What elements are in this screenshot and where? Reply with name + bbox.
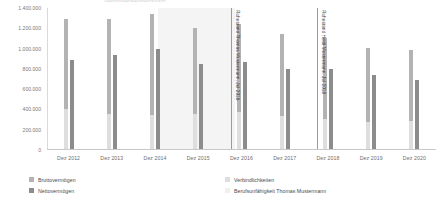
bar-liability-segment	[64, 109, 68, 150]
x-tick-label: Dez 2019	[360, 155, 383, 161]
y-tick-label: 200.000	[23, 127, 41, 133]
bar	[286, 69, 290, 150]
legend-item: Nettovermögen	[29, 185, 76, 196]
y-axis-spine	[47, 8, 48, 150]
bar-liability-segment	[280, 116, 284, 150]
annotation-label: Ruhestand Heidi Mustermann, Jul 2018	[320, 10, 325, 94]
x-tick-label: Dez 2015	[187, 155, 210, 161]
annotation-line	[231, 8, 232, 150]
bar-liability-segment	[323, 119, 327, 150]
legend-swatch-icon	[29, 177, 34, 182]
bar-liability-segment	[193, 114, 197, 150]
bar-liability-segment	[366, 122, 370, 150]
bar-liability-segment	[409, 121, 413, 150]
y-tick-label: 1.400.000	[18, 5, 41, 11]
x-tick-label: Dez 2018	[316, 155, 339, 161]
legend-item-label: Verbindlichkeiten	[234, 177, 274, 183]
legend-item: Verbindlichkeiten	[225, 174, 326, 185]
legend-swatch-icon	[29, 188, 34, 193]
bar	[329, 69, 333, 150]
y-tick-label: 1.000.000	[18, 46, 41, 52]
chart-legend: BruttovermögenNettovermögen Verbindlichk…	[0, 170, 442, 203]
chart-root: Vermögensentwicklung Ruhestand Thomas Mu…	[0, 0, 442, 203]
plot-background	[47, 8, 436, 150]
x-tick-label: Dez 2016	[230, 155, 253, 161]
y-tick-label: 400.000	[23, 106, 41, 112]
x-tick-label: Dez 2014	[144, 155, 167, 161]
bar	[150, 14, 154, 150]
plot-area: Ruhestand Thomas Mustermann, Jul 2016Ruh…	[47, 8, 436, 150]
bar	[107, 19, 111, 150]
y-axis-ticks: 1.400.0001.200.0001.000.000800.000600.00…	[0, 8, 44, 150]
bar-liability-segment	[237, 112, 241, 150]
bar-liability-segment	[107, 114, 111, 150]
bar	[243, 62, 247, 150]
bar	[193, 28, 197, 150]
bar	[64, 19, 68, 150]
x-tick-label: Dez 2020	[403, 155, 426, 161]
x-tick-label: Dez 2012	[57, 155, 80, 161]
legend-item: Bruttovermögen	[29, 174, 76, 185]
bar	[199, 64, 203, 150]
legend-item-label: Berufsunfähigkeit Thomas Mustermann	[234, 188, 326, 194]
legend-swatch-icon	[225, 188, 230, 193]
bar	[280, 34, 284, 150]
legend-column-left: BruttovermögenNettovermögen	[29, 174, 76, 196]
bar	[415, 80, 419, 150]
chart-title-clipped: Vermögensentwicklung	[104, 0, 166, 2]
bar-liability-segment	[150, 115, 154, 150]
bar	[70, 60, 74, 150]
legend-item: Berufsunfähigkeit Thomas Mustermann	[225, 185, 326, 196]
bar	[366, 48, 370, 150]
legend-column-right: VerbindlichkeitenBerufsunfähigkeit Thoma…	[225, 174, 326, 196]
legend-item-label: Nettovermögen	[38, 188, 74, 194]
legend-swatch-icon	[225, 177, 230, 182]
x-tick-label: Dez 2017	[273, 155, 296, 161]
y-tick-label: 0	[38, 147, 41, 153]
x-axis-spine	[47, 149, 436, 150]
bar	[113, 55, 117, 150]
bar	[372, 75, 376, 150]
x-tick-label: Dez 2013	[100, 155, 123, 161]
legend-item-label: Bruttovermögen	[38, 177, 76, 183]
bar	[156, 49, 160, 150]
annotation-line	[317, 8, 318, 150]
y-tick-label: 800.000	[23, 66, 41, 72]
y-tick-label: 1.200.000	[18, 25, 41, 31]
annotation-label: Ruhestand Thomas Mustermann, Jul 2016	[234, 10, 239, 100]
bar	[409, 50, 413, 150]
y-tick-label: 600.000	[23, 86, 41, 92]
